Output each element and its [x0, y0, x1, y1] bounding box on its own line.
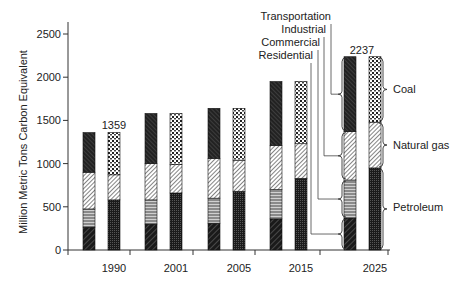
y-ticks: 05001000150020002500	[37, 28, 68, 256]
y-tick-label: 1500	[37, 114, 61, 126]
total-label-1990: 1359	[102, 119, 126, 131]
bar-segment-transportation	[208, 108, 220, 158]
bar-segment-industrial	[145, 164, 157, 200]
bar-segment-residential	[208, 223, 220, 250]
bar-segment-residential	[145, 224, 157, 250]
bar-segment-commercial	[344, 180, 356, 218]
legend-natural-gas: Natural gas	[393, 139, 450, 151]
bar-segment-petroleum	[369, 168, 381, 250]
bar-segment-residential	[344, 218, 356, 250]
x-tick-label: 2015	[289, 262, 313, 274]
y-tick-label: 2500	[37, 28, 61, 40]
bar-segment-coal	[295, 82, 307, 144]
bar-segment-petroleum	[108, 200, 120, 250]
bar-segment-commercial	[83, 209, 95, 227]
bar-segment-transportation	[145, 113, 157, 163]
bars	[83, 57, 381, 250]
x-tick-label: 2025	[363, 262, 387, 274]
y-tick-label: 0	[55, 244, 61, 256]
bar-segment-residential	[83, 227, 95, 250]
bar-segment-natural-gas	[369, 122, 381, 168]
bar-segment-petroleum	[170, 193, 182, 250]
bar-segment-coal	[369, 57, 381, 122]
y-tick-label: 500	[43, 201, 61, 213]
bar-segment-coal	[233, 108, 245, 160]
legend-petroleum: Petroleum	[393, 201, 443, 213]
bar-segment-natural-gas	[295, 144, 307, 179]
x-tick-label: 2001	[164, 262, 188, 274]
x-tick-label: 1990	[102, 262, 126, 274]
bar-segment-transportation	[344, 57, 356, 132]
legend-transportation: Transportation	[260, 10, 331, 22]
legend-coal: Coal	[393, 83, 416, 95]
legend-residential: Residential	[259, 49, 313, 61]
legend-commercial: Commercial	[261, 36, 320, 48]
y-tick-label: 2000	[37, 71, 61, 83]
bar-segment-transportation	[270, 82, 282, 146]
bar-segment-petroleum	[295, 178, 307, 250]
bar-segment-coal	[170, 113, 182, 164]
legend-industrial: Industrial	[281, 23, 326, 35]
bar-segment-industrial	[344, 132, 356, 180]
bar-segment-coal	[108, 133, 120, 175]
bar-segment-natural-gas	[108, 175, 120, 200]
x-ticks: 19902001200520152025	[68, 250, 388, 274]
bar-segment-transportation	[83, 133, 95, 173]
bar-segment-natural-gas	[170, 164, 182, 193]
bar-segment-commercial	[270, 190, 282, 219]
bar-segment-industrial	[208, 158, 220, 198]
bar-segment-industrial	[83, 172, 95, 209]
y-tick-label: 1000	[37, 158, 61, 170]
x-tick-label: 2005	[227, 262, 251, 274]
bar-segment-petroleum	[233, 191, 245, 250]
bar-segment-commercial	[208, 198, 220, 223]
emissions-chart: 05001000150020002500 1990200120052015202…	[0, 0, 463, 289]
bar-segment-natural-gas	[233, 160, 245, 191]
y-axis-label: Million Metric Tons Carbon Equivalent	[17, 50, 29, 234]
bar-segment-industrial	[270, 145, 282, 189]
bar-segment-commercial	[145, 200, 157, 224]
bar-segment-residential	[270, 219, 282, 250]
total-label-2025: 2237	[350, 44, 374, 56]
